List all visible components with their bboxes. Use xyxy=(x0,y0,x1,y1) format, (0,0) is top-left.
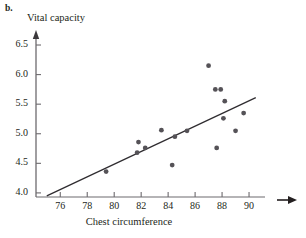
x-tick-label: 84 xyxy=(157,200,179,211)
data-point xyxy=(213,87,218,92)
x-tick-label: 88 xyxy=(211,200,233,211)
data-point xyxy=(206,63,211,68)
data-point xyxy=(135,150,140,155)
x-tick-label: 80 xyxy=(103,200,125,211)
data-points-group xyxy=(104,63,246,174)
data-point xyxy=(104,169,109,174)
data-point xyxy=(222,99,227,104)
data-point xyxy=(221,116,226,121)
axes-group xyxy=(33,30,297,204)
regression-line xyxy=(47,98,256,196)
data-point xyxy=(241,111,246,116)
x-tick-label: 86 xyxy=(184,200,206,211)
plot-canvas xyxy=(0,0,306,238)
data-point xyxy=(172,134,177,139)
x-tick-label: 78 xyxy=(76,200,98,211)
x-axis-arrow-icon xyxy=(288,196,297,204)
y-tick-label: 4.0 xyxy=(6,186,28,197)
data-point xyxy=(233,128,238,133)
x-tick-label: 76 xyxy=(49,200,71,211)
data-point xyxy=(136,140,141,145)
y-tick-label: 5.5 xyxy=(6,97,28,108)
y-tick-label: 6.5 xyxy=(6,38,28,49)
data-point xyxy=(170,163,175,168)
data-point xyxy=(185,128,190,133)
y-tick-label: 6.0 xyxy=(6,68,28,79)
y-axis-arrow-icon xyxy=(33,30,39,39)
data-point xyxy=(159,128,164,133)
y-tick-label: 4.5 xyxy=(6,156,28,167)
data-point xyxy=(218,87,223,92)
y-tick-label: 5.0 xyxy=(6,127,28,138)
data-point xyxy=(214,146,219,151)
x-tick-label: 82 xyxy=(130,200,152,211)
data-point xyxy=(143,146,148,151)
x-tick-label: 90 xyxy=(238,200,260,211)
scatter-plot-figure: b. Vital capacity Chest circumference 4.… xyxy=(0,0,306,238)
regression-line-group xyxy=(47,98,256,196)
